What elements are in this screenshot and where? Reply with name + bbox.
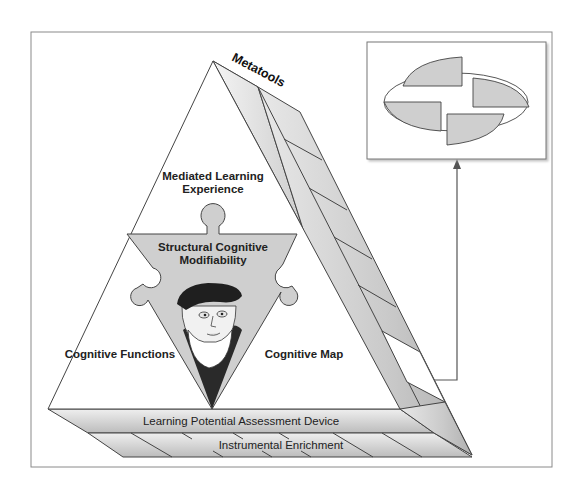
inset-box — [367, 42, 546, 159]
lpad-label: Learning Potential Assessment Device — [143, 415, 339, 427]
cognitive-functions-label: Cognitive Functions — [65, 348, 176, 360]
diagram-canvas: Learning Potential Assessment Device Ins… — [0, 0, 585, 497]
scm-label-line2: Modifiability — [179, 254, 247, 266]
base-slabs: Learning Potential Assessment Device Ins… — [48, 402, 472, 457]
ie-label: Instrumental Enrichment — [219, 439, 344, 451]
cognitive-map-label: Cognitive Map — [265, 348, 344, 360]
scm-label-line1: Structural Cognitive — [158, 241, 268, 253]
mle-label-line1: Mediated Learning — [162, 170, 264, 182]
mle-label-line2: Experience — [182, 183, 243, 195]
